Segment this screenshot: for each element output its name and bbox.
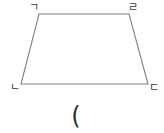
vertex-label-top-right: ㄹ: [128, 2, 138, 13]
vertex-label-bottom-left: ㄴ: [10, 82, 20, 93]
vertex-label-top-left: ㄱ: [29, 2, 39, 13]
vertex-label-bottom-right: ㄷ: [149, 82, 159, 93]
trapezoid-outline: [21, 14, 148, 84]
figure-canvas: ㄱ ㄹ ㄴ ㄷ (: [0, 0, 164, 133]
caption-open-parenthesis: (: [66, 103, 86, 129]
